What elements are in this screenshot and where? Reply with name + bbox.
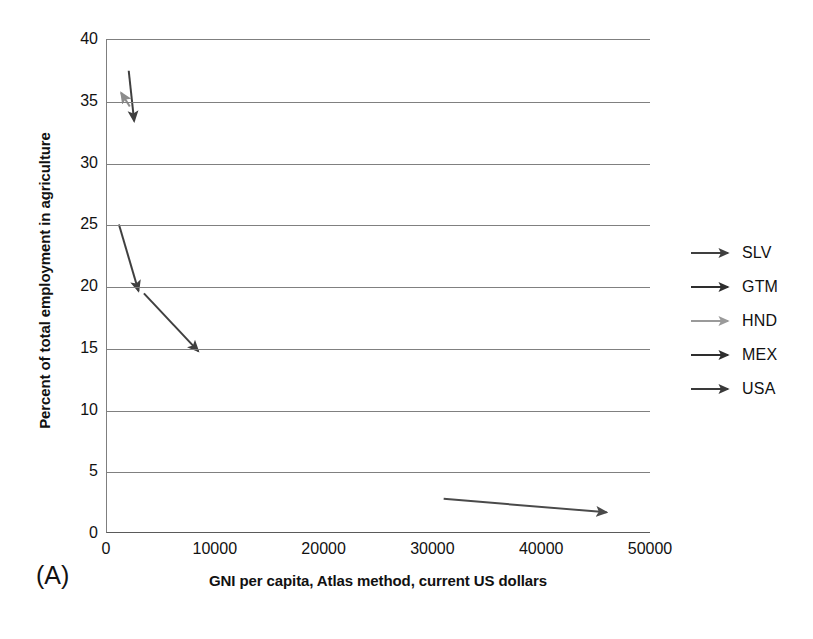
series-arrow-hnd <box>121 93 130 107</box>
gridline <box>107 411 650 412</box>
gridline <box>107 472 650 473</box>
series-arrow-mex <box>144 293 198 351</box>
legend-label: USA <box>742 380 776 398</box>
y-tick-label: 0 <box>50 524 98 542</box>
x-tick-label: 40000 <box>519 540 564 558</box>
x-axis-tick-labels: 01000020000300004000050000 <box>106 540 650 564</box>
figure-panel-a: Percent of total employment in agricultu… <box>0 0 813 639</box>
series-arrow-usa <box>444 499 607 513</box>
y-tick-label: 15 <box>50 339 98 357</box>
legend-label: GTM <box>742 278 778 296</box>
y-axis-tick-labels: 0510152025303540 <box>50 39 98 533</box>
legend-item-usa[interactable]: USA <box>690 372 810 406</box>
legend-arrow-icon <box>690 313 736 329</box>
legend-arrow-icon <box>690 347 736 363</box>
y-tick-label: 35 <box>50 92 98 110</box>
gridline <box>107 102 650 103</box>
legend-label: HND <box>742 312 777 330</box>
gridline <box>107 287 650 288</box>
y-tick-label: 10 <box>50 401 98 419</box>
x-axis-title: GNI per capita, Atlas method, current US… <box>106 572 650 589</box>
y-tick-label: 25 <box>50 215 98 233</box>
legend-item-hnd[interactable]: HND <box>690 304 810 338</box>
legend-label: MEX <box>742 346 777 364</box>
series-arrow-gtm <box>119 225 139 291</box>
legend-label: SLV <box>742 244 772 262</box>
y-tick-label: 30 <box>50 154 98 172</box>
legend-arrow-icon <box>690 381 736 397</box>
legend: SLVGTMHNDMEXUSA <box>690 236 810 406</box>
gridline <box>107 349 650 350</box>
y-tick-label: 40 <box>50 30 98 48</box>
plot-area <box>106 39 650 533</box>
series-arrow-slv <box>129 71 134 121</box>
y-tick-label: 20 <box>50 277 98 295</box>
legend-item-mex[interactable]: MEX <box>690 338 810 372</box>
x-tick-label: 0 <box>102 540 111 558</box>
legend-item-gtm[interactable]: GTM <box>690 270 810 304</box>
x-tick-label: 30000 <box>410 540 455 558</box>
y-tick-label: 5 <box>50 462 98 480</box>
x-tick-label: 20000 <box>301 540 346 558</box>
gridline <box>107 164 650 165</box>
gridline <box>107 225 650 226</box>
legend-arrow-icon <box>690 245 736 261</box>
legend-arrow-icon <box>690 279 736 295</box>
x-tick-label: 10000 <box>193 540 238 558</box>
panel-label: (A) <box>36 561 69 590</box>
series-arrows-layer <box>107 40 650 532</box>
x-tick-label: 50000 <box>628 540 673 558</box>
legend-item-slv[interactable]: SLV <box>690 236 810 270</box>
